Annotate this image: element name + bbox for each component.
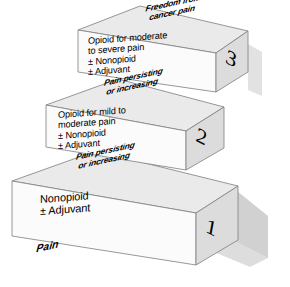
step-3-number: 3	[226, 44, 237, 74]
who-analgesic-ladder-diagram: Freedom from cancer pain Opioid for mode…	[0, 0, 290, 287]
step-1-number: 1	[206, 213, 217, 243]
step-2-number: 2	[196, 122, 207, 152]
